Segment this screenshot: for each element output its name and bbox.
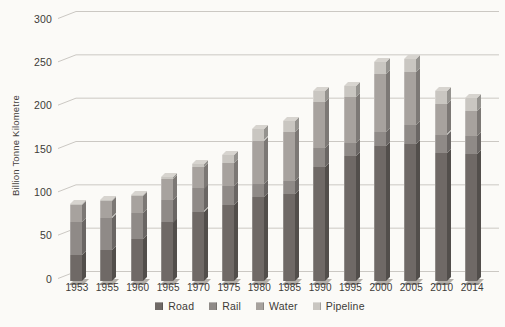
y-axis-tick-label: 0	[14, 273, 52, 285]
bar-segment-water	[313, 102, 325, 148]
bar-segment-side-road	[173, 218, 177, 281]
bar-segment-road	[465, 154, 477, 281]
bar-segment-side-water	[325, 98, 329, 148]
bar-segment-rail	[344, 143, 356, 156]
bar-segment-pipeline	[70, 204, 82, 205]
bar-segment-side-road	[234, 201, 238, 281]
bar-segment-side-road	[477, 150, 481, 281]
legend-swatch-pipeline-icon	[313, 302, 321, 310]
bar-segment-rail	[374, 132, 386, 146]
bar-segment-road	[70, 255, 82, 281]
bar-segment-rail	[192, 188, 204, 211]
bar-segment-road	[222, 205, 234, 281]
bar-segment-pipeline	[161, 177, 173, 179]
legend-label: Road	[168, 300, 194, 312]
bar-segment-side-rail	[143, 209, 147, 239]
bar-segment-side-road	[386, 142, 390, 281]
x-axis-tick-label: 2000	[365, 282, 397, 293]
bar-segment-side-water	[204, 163, 208, 189]
bar-segment-rail	[70, 222, 82, 255]
x-axis-tick-label: 1953	[61, 282, 93, 293]
legend-item-water: Water	[256, 300, 298, 312]
grid-diagonal	[58, 55, 76, 62]
bar-segment-side-water	[416, 68, 420, 125]
y-axis-tick-label: 300	[14, 13, 52, 25]
bar-segment-pipeline	[374, 62, 386, 74]
x-axis-tick-label: 1965	[152, 282, 184, 293]
legend-item-road: Road	[155, 300, 194, 312]
bar-segment-side-road	[325, 163, 329, 281]
bar-segment-side-water	[264, 137, 268, 184]
freight-mode-stacked-bar-chart: Billion Tonne Kilometre 0501001502002503…	[0, 0, 505, 327]
bar-segment-side-road	[264, 193, 268, 281]
bar-segment-side-water	[386, 70, 390, 132]
chart-legend: RoadRailWaterPipeline	[20, 300, 500, 312]
legend-swatch-rail-icon	[209, 302, 217, 310]
bar-segment-pipeline	[222, 155, 234, 163]
bar-segment-pipeline	[404, 59, 416, 72]
bar-segment-side-rail	[234, 182, 238, 205]
bar-segment-road	[100, 250, 112, 281]
bar-segment-water	[465, 111, 477, 136]
bar-segment-side-rail	[112, 214, 116, 250]
bar-segment-side-road	[82, 251, 86, 281]
bar-segment-road	[374, 146, 386, 281]
bar-segment-water	[435, 104, 447, 134]
legend-item-pipeline: Pipeline	[313, 300, 365, 312]
legend-label: Water	[269, 300, 298, 312]
bar-segment-water	[70, 205, 82, 222]
x-axis-tick-label: 1955	[91, 282, 123, 293]
x-axis-tick-label: 1975	[213, 282, 245, 293]
bar-segment-side-road	[356, 152, 360, 281]
bar-segment-side-water	[356, 93, 360, 143]
bar-segment-water	[283, 132, 295, 181]
bar-segment-side-water	[234, 159, 238, 186]
bar-segment-road	[283, 194, 295, 281]
bar-segment-road	[131, 239, 143, 281]
legend-label: Rail	[222, 300, 241, 312]
bar-segment-road	[344, 156, 356, 281]
bar-segment-side-water	[173, 175, 177, 200]
bar-segment-pipeline	[100, 200, 112, 201]
x-axis-tick-label: 1970	[183, 282, 215, 293]
bar-segment-rail	[313, 148, 325, 167]
x-axis-tick-label: 1960	[122, 282, 154, 293]
bar-segment-road	[313, 167, 325, 281]
bar-segment-rail	[435, 135, 447, 153]
bar-segment-water	[252, 141, 264, 184]
legend-item-rail: Rail	[209, 300, 241, 312]
bar-segment-pipeline	[465, 98, 477, 111]
bar-segment-rail	[131, 213, 143, 239]
bar-segment-side-road	[447, 149, 451, 281]
bar-segment-side-road	[143, 235, 147, 281]
x-axis-tick-label: 2010	[426, 282, 458, 293]
grid-diagonal	[58, 98, 76, 105]
grid-diagonal	[58, 12, 76, 19]
grid-diagonal	[58, 142, 76, 149]
bar-segment-road	[435, 153, 447, 281]
bar-segment-rail	[100, 218, 112, 250]
bar-segment-road	[404, 144, 416, 281]
x-axis-tick-label: 1980	[243, 282, 275, 293]
y-axis-tick-label: 50	[14, 229, 52, 241]
x-axis-tick-label: 1990	[304, 282, 336, 293]
bar-segment-rail	[404, 125, 416, 144]
bar-segment-water	[131, 196, 143, 213]
bar-segment-pipeline	[435, 91, 447, 104]
bar-segment-rail	[222, 186, 234, 205]
bar-segment-water	[344, 97, 356, 143]
bar-segment-side-rail	[82, 218, 86, 255]
bar-segment-side-water	[295, 128, 299, 181]
bar-segment-pipeline	[313, 91, 325, 102]
bar-segment-pipeline	[283, 121, 295, 132]
bar-segment-water	[192, 167, 204, 189]
bar-segment-rail	[465, 136, 477, 154]
bar-segment-side-rail	[173, 196, 177, 223]
y-axis-tick-label: 150	[14, 143, 52, 155]
x-axis-tick-label: 1995	[335, 282, 367, 293]
bar-segment-road	[192, 212, 204, 281]
legend-label: Pipeline	[326, 300, 365, 312]
y-axis-tick-label: 200	[14, 99, 52, 111]
bar-segment-side-water	[477, 107, 481, 136]
legend-swatch-water-icon	[256, 302, 264, 310]
